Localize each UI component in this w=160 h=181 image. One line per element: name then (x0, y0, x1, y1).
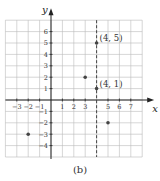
y-tick-label: −4 (38, 142, 48, 150)
y-axis-arrow-icon (49, 8, 54, 15)
x-axis-arrow-icon (147, 98, 154, 103)
x-tick-label: 3 (83, 103, 87, 111)
y-axis-label: y (41, 4, 48, 15)
x-axis-label: x (152, 103, 158, 114)
x-tick-label: 2 (72, 103, 76, 111)
y-tick-label: −1 (38, 108, 48, 116)
figure-caption: (b) (0, 164, 160, 175)
data-point (95, 87, 99, 91)
point-label: (4, 1) (100, 79, 123, 89)
x-tick-label: 7 (129, 103, 133, 111)
x-tick-label: 6 (117, 103, 121, 111)
data-point (106, 121, 110, 125)
y-tick-label: 4 (44, 51, 48, 59)
y-tick-label: 1 (44, 85, 48, 93)
y-tick-label: 5 (44, 39, 48, 47)
x-tick-label: −3 (12, 103, 22, 111)
x-tick-label: −2 (23, 103, 33, 111)
y-tick-label: −3 (38, 131, 48, 139)
y-tick-label: 2 (44, 74, 48, 82)
x-tick-label: 1 (60, 103, 64, 111)
y-tick-label: 6 (44, 28, 48, 36)
data-point (95, 41, 99, 45)
y-tick-label: −2 (38, 119, 48, 127)
data-point (83, 75, 87, 79)
x-tick-label: 5 (106, 103, 110, 111)
coordinate-plane: xy−3−2−1123567−4−3−2−1123456(4, 5)(4, 1) (0, 0, 160, 181)
point-label: (4, 5) (100, 33, 123, 43)
y-tick-label: 3 (44, 62, 48, 70)
data-point (26, 132, 30, 136)
